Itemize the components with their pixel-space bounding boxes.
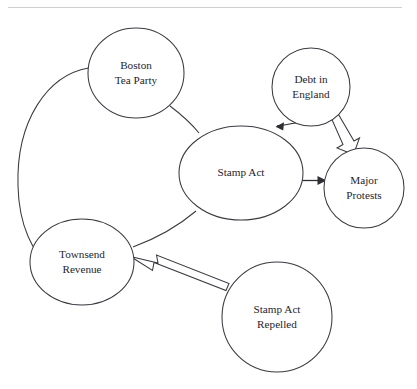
node-label-boston-tea-party-line2: Tea Party	[115, 74, 158, 86]
node-label-boston-tea-party-line1: Boston	[120, 59, 152, 71]
block-arrow-stamp-act-repelled-to-townsend-revenue	[131, 255, 230, 291]
node-label-debt-in-england-line1: Debt in	[294, 73, 328, 85]
node-label-stamp-act-repelled-line2: Repelled	[257, 318, 297, 330]
node-label-major-protests-line1: Major	[350, 174, 378, 186]
arrowhead-debt-in-england-to-stamp-act	[276, 122, 285, 130]
node-stamp-act-repelled[interactable]: Stamp Act Repelled	[222, 262, 332, 372]
edge-boston-tea-party-to-stamp-act	[170, 106, 199, 133]
node-label-townsend-revenue-line1: Townsend	[59, 248, 105, 260]
node-townsend-revenue[interactable]: Townsend Revenue	[30, 219, 134, 305]
node-major-protests[interactable]: Major Protests	[324, 148, 404, 228]
node-label-stamp-act-repelled-line1: Stamp Act	[254, 303, 302, 315]
node-label-debt-in-england-line2: England	[292, 88, 330, 100]
diagram-canvas: Boston Tea Party Debt in England Stamp A…	[0, 0, 417, 389]
node-label-stamp-act: Stamp Act	[218, 166, 266, 178]
concept-map-diagram: Boston Tea Party Debt in England Stamp A…	[0, 0, 417, 389]
node-debt-in-england[interactable]: Debt in England	[272, 48, 350, 126]
edge-stamp-act-to-townsend-revenue	[133, 211, 196, 247]
node-stamp-act[interactable]: Stamp Act	[179, 126, 303, 220]
node-label-major-protests-line2: Protests	[346, 189, 381, 201]
node-label-townsend-revenue-line2: Revenue	[62, 263, 101, 275]
node-boston-tea-party[interactable]: Boston Tea Party	[88, 28, 184, 118]
